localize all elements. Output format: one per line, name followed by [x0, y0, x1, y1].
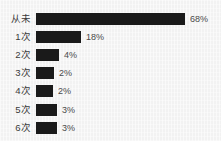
bar-track: 18%: [36, 31, 221, 43]
bar: [36, 31, 81, 43]
bar-track: 3%: [36, 104, 221, 116]
category-label: 从未: [0, 13, 36, 25]
value-label: 68%: [185, 13, 208, 25]
category-label: 5次: [0, 104, 36, 116]
value-label: 3%: [57, 122, 75, 134]
bar-track: 68%: [36, 13, 221, 25]
bar-chart: 从未 68% 1次 18% 2次 4% 3次 2% 4次 2%: [0, 0, 221, 141]
value-label: 2%: [53, 85, 71, 97]
bar: [36, 122, 57, 134]
bar-track: 2%: [36, 85, 221, 97]
bar: [36, 104, 57, 116]
chart-row: 1次 18%: [0, 31, 221, 43]
value-label: 4%: [59, 49, 77, 61]
value-label: 3%: [57, 104, 75, 116]
category-label: 2次: [0, 49, 36, 61]
chart-row: 从未 68%: [0, 13, 221, 25]
bar-track: 4%: [36, 49, 221, 61]
bar-track: 2%: [36, 67, 221, 79]
category-label: 1次: [0, 31, 36, 43]
category-label: 6次: [0, 122, 36, 134]
chart-row: 4次 2%: [0, 85, 221, 97]
bar: [36, 67, 54, 79]
category-label: 3次: [0, 67, 36, 79]
chart-row: 5次 3%: [0, 104, 221, 116]
chart-row: 6次 3%: [0, 122, 221, 134]
bar-track: 3%: [36, 122, 221, 134]
chart-row: 2次 4%: [0, 49, 221, 61]
value-label: 18%: [81, 31, 104, 43]
chart-row: 3次 2%: [0, 67, 221, 79]
value-label: 2%: [54, 67, 72, 79]
category-label: 4次: [0, 85, 36, 97]
bar: [36, 49, 59, 61]
bar: [36, 85, 53, 97]
bar: [36, 13, 185, 25]
